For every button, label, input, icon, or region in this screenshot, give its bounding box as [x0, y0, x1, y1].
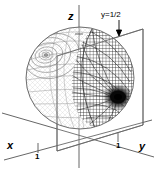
y-axis-tick-label-1: 1 [116, 142, 120, 150]
plane-label-arrow [116, 20, 121, 36]
x-axis-label: x [7, 140, 13, 151]
figure-canvas: z x y 1 1 y=1/2 [0, 0, 156, 169]
z-axis-label: z [68, 11, 74, 22]
cut-plane-label: y=1/2 [101, 11, 121, 19]
y-axis-label: y [139, 141, 145, 152]
plot-svg [0, 0, 156, 169]
x-axis-tick-label-1: 1 [35, 153, 39, 161]
